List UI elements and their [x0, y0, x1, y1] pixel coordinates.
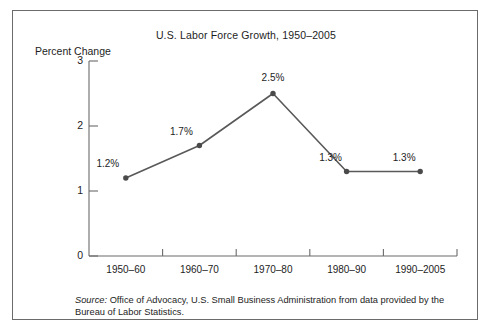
y-tick-label: 0 — [63, 249, 83, 261]
chart-frame: U.S. Labor Force Growth, 1950–2005 Perce… — [12, 10, 478, 320]
data-point-marker — [197, 143, 202, 148]
x-tick-marks — [163, 249, 457, 256]
y-tick-label: 3 — [63, 54, 83, 66]
data-point-marker — [270, 91, 275, 96]
source-note: Source: Office of Advocacy, U.S. Small B… — [75, 294, 467, 319]
data-point-label: 1.3% — [384, 152, 424, 163]
y-tick-label: 1 — [63, 184, 83, 196]
x-tick-label: 1990–2005 — [375, 264, 465, 275]
data-point-marker — [344, 169, 349, 174]
figure-canvas: U.S. Labor Force Growth, 1950–2005 Perce… — [0, 0, 486, 332]
data-point-label: 2.5% — [253, 72, 293, 83]
data-point-label: 1.3% — [311, 152, 351, 163]
data-point-marker — [418, 169, 423, 174]
source-text: Office of Advocacy, U.S. Small Business … — [75, 295, 444, 317]
plot-area: 0123 1950–601960–701970–801980–901990–20… — [13, 11, 479, 321]
data-point-label: 1.2% — [88, 158, 128, 169]
data-point-marker — [123, 175, 128, 180]
data-point-label: 1.7% — [161, 126, 201, 137]
y-tick-label: 2 — [63, 119, 83, 131]
source-label: Source: — [75, 295, 107, 305]
